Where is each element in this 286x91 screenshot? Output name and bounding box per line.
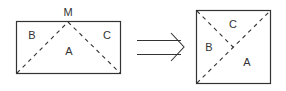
region-label-a: A: [65, 45, 73, 57]
rectangle-to-square-diagram: M B A C C B A: [0, 0, 286, 91]
right-square-figure: C B A: [197, 11, 271, 84]
apex-label-m: M: [63, 6, 72, 18]
region-label-a: A: [243, 56, 251, 68]
transform-arrow-icon: [137, 33, 184, 61]
left-rectangle-figure: M B A C: [17, 6, 121, 74]
region-label-c: C: [229, 18, 237, 30]
right-dashed-fold-line: [68, 22, 120, 73]
region-label-b: B: [205, 41, 212, 53]
region-label-b: B: [28, 29, 35, 41]
partial-dashed-diagonal: [197, 11, 233, 47]
region-label-c: C: [103, 29, 111, 41]
left-dashed-fold-line: [17, 22, 68, 73]
